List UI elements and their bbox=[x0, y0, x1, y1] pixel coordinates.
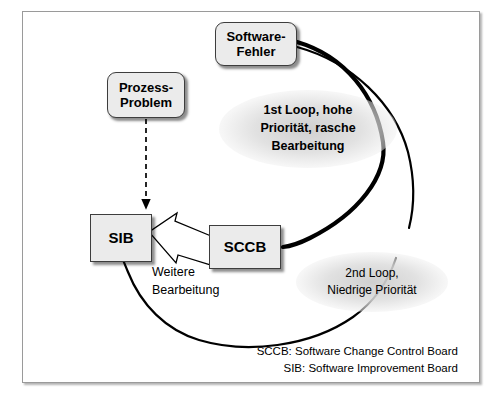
node-sib-label: SIB bbox=[108, 229, 133, 246]
legend-line-sccb: SCCB: Software Change Control Board bbox=[190, 343, 458, 360]
node-sccb[interactable]: SCCB bbox=[209, 225, 281, 269]
node-sccb-label: SCCB bbox=[224, 238, 267, 255]
node-prozess-problem-label: Prozess- Problem bbox=[119, 80, 173, 110]
label-first-loop: 1st Loop, hohe Priorität, rasche Bearbei… bbox=[238, 102, 378, 155]
label-weitere-bearbeitung: Weitere Bearbeitung bbox=[152, 264, 244, 300]
label-second-loop-halo bbox=[296, 252, 448, 312]
diagram-frame bbox=[22, 11, 480, 383]
node-prozess-problem[interactable]: Prozess- Problem bbox=[107, 72, 185, 118]
label-weitere-bearbeitung-text: Weitere Bearbeitung bbox=[152, 265, 219, 297]
label-second-loop: 2nd Loop, Niedrige Priorität bbox=[311, 265, 433, 299]
label-first-loop-text: 1st Loop, hohe Priorität, rasche Bearbei… bbox=[260, 103, 355, 153]
node-software-fehler[interactable]: Software- Fehler bbox=[215, 22, 297, 66]
legend-line-sib: SIB: Software Improvement Board bbox=[190, 360, 458, 377]
node-software-fehler-label: Software- Fehler bbox=[226, 29, 285, 59]
legend: SCCB: Software Change Control Board SIB:… bbox=[190, 343, 458, 376]
node-sib[interactable]: SIB bbox=[90, 214, 152, 262]
diagram-canvas: Software- Fehler Prozess- Problem SIB SC… bbox=[0, 0, 504, 408]
